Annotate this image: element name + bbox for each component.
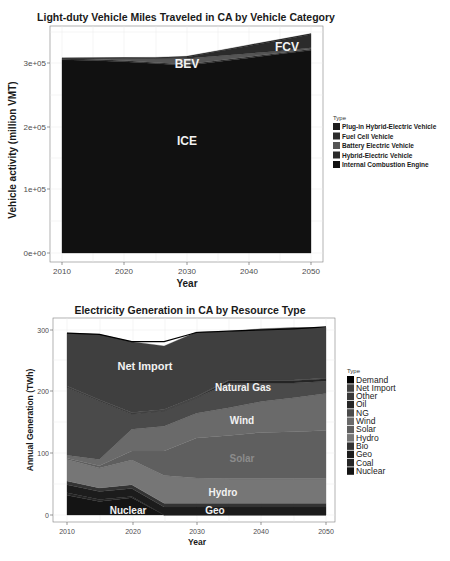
legend-swatch — [347, 434, 354, 442]
area-internal-combustion-engine — [62, 50, 311, 253]
legend-label: Internal Combustion Engine — [342, 161, 429, 169]
solar-label: Solar — [229, 453, 254, 464]
electricity-x-axis-title: Year — [188, 537, 207, 547]
vmt-x-tick: 2030 — [178, 267, 196, 276]
electricity-y-tick: 100 — [37, 450, 49, 457]
vmt-legend: Type Plug-in Hybrid-Electric VehicleFuel… — [333, 115, 437, 169]
legend-swatch — [333, 152, 340, 159]
electricity-y-axis: 0 100 200 300 Annual Generation (TWh) — [25, 327, 53, 519]
electricity-x-tick: 2020 — [125, 528, 141, 535]
net-import-label: Net Import — [118, 360, 173, 372]
electricity-legend-title: Type — [347, 368, 361, 374]
electricity-areas — [67, 327, 326, 515]
legend-swatch — [333, 133, 340, 140]
legend-label: Hybrid-Electric Vehicle — [342, 152, 413, 160]
legend-swatch — [333, 142, 340, 149]
electricity-y-axis-title: Annual Generation (TWh) — [25, 369, 35, 472]
vmt-y-axis: 0e+00 1e+05 2e+05 3e+05 Vehicle activity… — [7, 59, 50, 258]
wind-label: Wind — [230, 415, 254, 426]
legend-label: Fuel Cell Vehicle — [342, 133, 394, 140]
vmt-x-tick: 2040 — [240, 267, 258, 276]
legend-swatch — [347, 384, 354, 392]
legend-swatch — [333, 123, 340, 130]
legend-swatch — [347, 451, 354, 459]
vmt-y-tick: 2e+05 — [24, 123, 47, 132]
legend-swatch — [347, 467, 354, 475]
vmt-y-axis-title: Vehicle activity (million VMT) — [7, 81, 18, 218]
hydro-label: Hydro — [209, 487, 238, 498]
legend-label: Plug-in Hybrid-Electric Vehicle — [342, 123, 437, 131]
nuclear-label: Nuclear — [110, 505, 147, 516]
electricity-x-tick: 2030 — [189, 528, 205, 535]
electricity-x-tick: 2040 — [253, 528, 269, 535]
legend-swatch — [347, 442, 354, 450]
electricity-y-tick: 300 — [37, 327, 49, 334]
legend-swatch — [347, 426, 354, 434]
vmt-x-tick: 2050 — [302, 267, 320, 276]
legend-swatch — [347, 459, 354, 467]
vmt-x-tick: 2010 — [53, 267, 71, 276]
legend-swatch — [333, 161, 340, 168]
vmt-chart: Light-duty Vehicle Miles Traveled in CA … — [0, 0, 450, 290]
electricity-x-tick: 2010 — [59, 528, 75, 535]
natural-gas-label: Natural Gas — [215, 382, 272, 393]
electricity-x-axis: 2010 2020 2030 2040 2050 Year — [59, 522, 334, 547]
vmt-y-tick: 3e+05 — [24, 59, 47, 68]
legend-label: Battery Electric Vehicle — [342, 142, 414, 150]
vmt-chart-title: Light-duty Vehicle Miles Traveled in CA … — [37, 11, 335, 23]
legend-swatch — [347, 393, 354, 401]
electricity-chart-title: Electricity Generation in CA by Resource… — [74, 304, 305, 316]
vmt-chart-svg: Light-duty Vehicle Miles Traveled in CA … — [0, 0, 450, 290]
vmt-x-axis: 2010 2020 2030 2040 2050 Year — [53, 262, 320, 289]
legend-label: Nuclear — [356, 466, 385, 476]
geo-label: Geo — [205, 505, 224, 516]
electricity-y-tick: 200 — [37, 388, 49, 395]
bev-label: BEV — [175, 57, 200, 71]
vmt-legend-title: Type — [333, 115, 347, 121]
electricity-legend: Type DemandNet ImportOtherOilNGWindSolar… — [347, 368, 396, 476]
electricity-chart-svg: Electricity Generation in CA by Resource… — [0, 290, 450, 561]
ice-label: ICE — [177, 134, 197, 148]
vmt-x-axis-title: Year — [176, 278, 197, 289]
legend-swatch — [347, 376, 354, 384]
fcv-label: FCV — [275, 40, 299, 54]
electricity-chart: Electricity Generation in CA by Resource… — [0, 290, 450, 561]
vmt-x-tick: 2020 — [115, 267, 133, 276]
legend-swatch — [347, 409, 354, 417]
electricity-y-tick: 0 — [45, 512, 49, 519]
legend-swatch — [347, 401, 354, 409]
legend-swatch — [347, 418, 354, 426]
vmt-y-tick: 0e+00 — [24, 249, 47, 258]
electricity-x-tick: 2050 — [318, 528, 334, 535]
vmt-y-tick: 1e+05 — [24, 185, 47, 194]
